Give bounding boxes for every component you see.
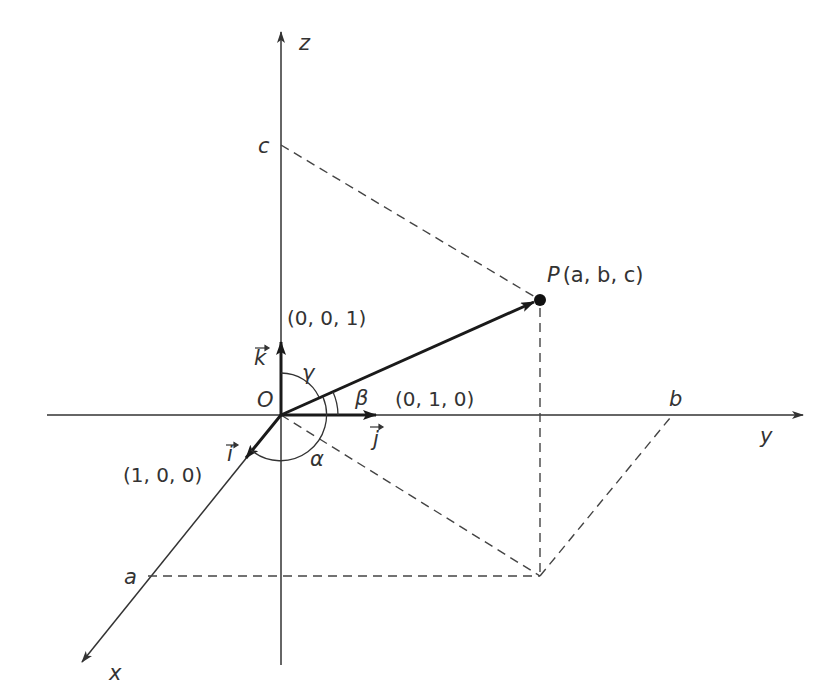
angle-alpha-label: α xyxy=(310,447,324,471)
point-P-label: P(a, b, c) xyxy=(547,263,644,287)
unit-i-coords: (1, 0, 0) xyxy=(123,463,202,487)
intercept-b: b xyxy=(669,387,682,411)
intercept-c: c xyxy=(258,134,270,158)
unit-j-coords: (0, 1, 0) xyxy=(395,387,474,411)
unit-k-symbol: k xyxy=(254,346,267,370)
angle-beta-label: β xyxy=(354,386,368,410)
angle-gamma-label: γ xyxy=(302,361,316,385)
point-coords: (a, b, c) xyxy=(563,263,644,287)
origin-label: O xyxy=(257,388,274,412)
coordinate-diagram: z y x O c b a P(a, b, c) k j i (0, 0, 1)… xyxy=(0,0,834,691)
unit-i-symbol: i xyxy=(227,442,233,466)
intercept-a: a xyxy=(124,565,137,589)
projection-lines xyxy=(148,145,670,576)
angle-beta-arc xyxy=(333,392,338,415)
z-axis-label: z xyxy=(298,31,311,55)
unit-vector-i xyxy=(246,415,281,458)
y-axis-label: y xyxy=(759,424,773,448)
point-P xyxy=(534,294,546,306)
point-name: P xyxy=(547,263,560,287)
unit-k-coords: (0, 0, 1) xyxy=(287,306,366,330)
x-axis-label: x xyxy=(108,661,122,685)
unit-j-symbol: j xyxy=(370,427,379,451)
